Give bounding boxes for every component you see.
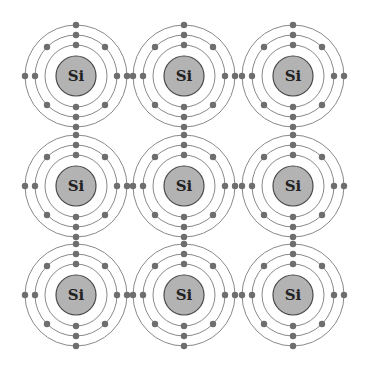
- electron-dot: [73, 32, 79, 38]
- electron-dot: [290, 251, 296, 257]
- electron-dot: [290, 224, 296, 230]
- electron-dot: [152, 44, 158, 50]
- electron-dot: [124, 73, 130, 79]
- electron-dot: [140, 183, 146, 189]
- silicon-atom: Si: [130, 132, 238, 240]
- electron-dot: [102, 212, 108, 218]
- electron-dot: [73, 124, 79, 130]
- electron-dot: [73, 234, 79, 240]
- electron-dot: [181, 22, 187, 28]
- electron-dot: [73, 104, 79, 110]
- electron-dot: [22, 73, 28, 79]
- electron-dot: [319, 263, 325, 269]
- electron-dot: [319, 321, 325, 327]
- electron-dot: [32, 73, 38, 79]
- electron-dot: [114, 73, 120, 79]
- electron-dot: [44, 102, 50, 108]
- electron-dot: [210, 154, 216, 160]
- electron-dot: [181, 42, 187, 48]
- electron-dot: [44, 212, 50, 218]
- electron-dot: [140, 292, 146, 298]
- electron-dot: [181, 152, 187, 158]
- electron-dot: [181, 251, 187, 257]
- electron-dot: [210, 321, 216, 327]
- electron-dot: [290, 343, 296, 349]
- electron-dot: [73, 251, 79, 257]
- electron-dot: [22, 292, 28, 298]
- electron-dot: [130, 73, 136, 79]
- electron-dot: [22, 183, 28, 189]
- electron-dot: [341, 73, 347, 79]
- electron-dot: [73, 333, 79, 339]
- element-symbol: Si: [68, 177, 85, 195]
- electron-dot: [249, 183, 255, 189]
- electron-dot: [232, 292, 238, 298]
- element-symbol: Si: [285, 286, 302, 304]
- element-symbol: Si: [285, 67, 302, 85]
- electron-dot: [290, 142, 296, 148]
- silicon-atom: Si: [130, 241, 238, 349]
- electron-dot: [73, 132, 79, 138]
- electron-dot: [181, 104, 187, 110]
- electron-dot: [152, 154, 158, 160]
- electron-dot: [319, 44, 325, 50]
- electron-dot: [290, 333, 296, 339]
- electron-dot: [210, 44, 216, 50]
- electron-dot: [44, 321, 50, 327]
- electron-dot: [32, 292, 38, 298]
- electron-dot: [331, 183, 337, 189]
- electron-dot: [319, 212, 325, 218]
- electron-dot: [73, 152, 79, 158]
- electron-dot: [331, 73, 337, 79]
- element-symbol: Si: [68, 67, 85, 85]
- electron-dot: [73, 142, 79, 148]
- electron-dot: [73, 214, 79, 220]
- electron-dot: [73, 241, 79, 247]
- electron-dot: [73, 323, 79, 329]
- electron-dot: [73, 261, 79, 267]
- electron-dot: [44, 263, 50, 269]
- electron-dot: [102, 321, 108, 327]
- electron-dot: [210, 263, 216, 269]
- electron-dot: [73, 42, 79, 48]
- lattice-canvas: SiSiSiSiSiSiSiSiSi: [0, 0, 370, 370]
- electron-dot: [261, 44, 267, 50]
- electron-dot: [290, 214, 296, 220]
- electron-dot: [124, 292, 130, 298]
- electron-dot: [73, 343, 79, 349]
- electron-dot: [319, 102, 325, 108]
- silicon-atom: Si: [22, 22, 130, 130]
- electron-dot: [152, 321, 158, 327]
- electron-dot: [181, 142, 187, 148]
- electron-dot: [114, 183, 120, 189]
- electron-dot: [44, 44, 50, 50]
- electron-dot: [181, 234, 187, 240]
- electron-dot: [290, 22, 296, 28]
- electron-dot: [261, 321, 267, 327]
- silicon-atom: Si: [239, 132, 347, 240]
- electron-dot: [210, 212, 216, 218]
- electron-dot: [44, 154, 50, 160]
- electron-dot: [290, 42, 296, 48]
- electron-dot: [32, 183, 38, 189]
- electron-dot: [341, 183, 347, 189]
- electron-dot: [290, 323, 296, 329]
- element-symbol: Si: [176, 177, 193, 195]
- electron-dot: [102, 154, 108, 160]
- electron-dot: [249, 73, 255, 79]
- silicon-atom: Si: [22, 132, 130, 240]
- electron-dot: [261, 102, 267, 108]
- silicon-atom: Si: [239, 241, 347, 349]
- electron-dot: [130, 183, 136, 189]
- electron-dot: [290, 124, 296, 130]
- electron-dot: [290, 261, 296, 267]
- electron-dot: [249, 292, 255, 298]
- electron-dot: [290, 152, 296, 158]
- electron-dot: [102, 102, 108, 108]
- electron-dot: [181, 241, 187, 247]
- electron-dot: [73, 224, 79, 230]
- electron-dot: [222, 73, 228, 79]
- electron-dot: [290, 104, 296, 110]
- electron-dot: [232, 73, 238, 79]
- electron-dot: [181, 323, 187, 329]
